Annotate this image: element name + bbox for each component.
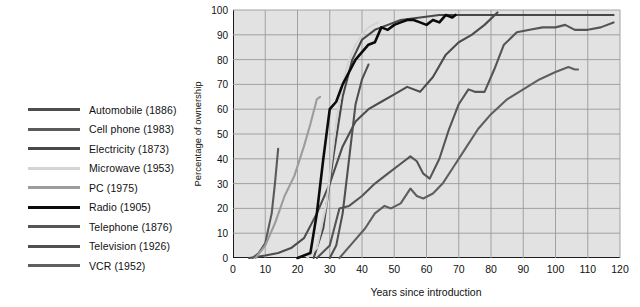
x-tick-label: 90 xyxy=(517,263,529,275)
legend-label-pc: PC (1975) xyxy=(89,182,138,194)
x-axis-label: Years since introduction xyxy=(370,286,481,298)
series-line xyxy=(307,22,378,258)
legend-swatch-telephone xyxy=(28,225,80,228)
legend-item-vcr[interactable]: VCR (1952) xyxy=(28,256,203,276)
legend-swatch-radio xyxy=(28,206,80,210)
legend-swatch-electricity xyxy=(28,147,80,150)
x-tick-label: 20 xyxy=(292,263,304,275)
y-tick-label: 80 xyxy=(217,54,228,65)
legend-label-automobile: Automobile (1886) xyxy=(89,104,177,116)
series-line xyxy=(298,15,456,258)
chart-figure: Automobile (1886) Cell phone (1983) Elec… xyxy=(0,0,640,307)
series-line xyxy=(252,149,278,258)
y-tick-label: 60 xyxy=(217,104,228,115)
y-tick-label: 70 xyxy=(217,79,228,90)
series-lines xyxy=(233,10,620,258)
legend-label-vcr: VCR (1952) xyxy=(89,260,145,272)
series-line xyxy=(314,15,614,258)
series-line xyxy=(249,12,497,258)
y-tick-label: 90 xyxy=(217,29,228,40)
y-tick-label: 20 xyxy=(217,203,228,214)
legend-swatch-cell-phone xyxy=(28,128,80,131)
y-tick-label: 40 xyxy=(217,153,228,164)
x-tick-label: 40 xyxy=(356,263,368,275)
legend-swatch-automobile xyxy=(28,108,80,111)
legend-item-cell-phone[interactable]: Cell phone (1983) xyxy=(28,120,203,140)
x-tick-label: 80 xyxy=(485,263,497,275)
legend-swatch-microwave xyxy=(28,167,80,170)
legend-item-microwave[interactable]: Microwave (1953) xyxy=(28,159,203,179)
legend-item-automobile[interactable]: Automobile (1886) xyxy=(28,100,203,120)
legend-swatch-television xyxy=(28,245,80,248)
legend-label-television: Television (1926) xyxy=(89,240,170,252)
x-tick-label: 120 xyxy=(611,263,629,275)
y-tick-label: 10 xyxy=(217,228,228,239)
chart-legend: Automobile (1886) Cell phone (1983) Elec… xyxy=(28,100,203,276)
series-line xyxy=(339,67,578,258)
x-tick-label: 110 xyxy=(579,263,596,275)
series-line xyxy=(317,22,614,258)
plot-area: 0102030405060708090100 01020304050607080… xyxy=(233,10,620,258)
legend-item-pc[interactable]: PC (1975) xyxy=(28,178,203,198)
legend-swatch-pc xyxy=(28,186,80,189)
x-tick-label: 0 xyxy=(230,263,236,275)
x-tick-label: 100 xyxy=(547,263,565,275)
legend-label-electricity: Electricity (1873) xyxy=(89,143,169,155)
legend-label-telephone: Telephone (1876) xyxy=(89,221,172,233)
legend-item-electricity[interactable]: Electricity (1873) xyxy=(28,139,203,159)
legend-label-cell-phone: Cell phone (1983) xyxy=(89,123,174,135)
legend-item-television[interactable]: Television (1926) xyxy=(28,237,203,257)
x-tick-label: 30 xyxy=(324,263,336,275)
y-tick-label: 100 xyxy=(211,5,228,16)
legend-label-microwave: Microwave (1953) xyxy=(89,162,174,174)
legend-label-radio: Radio (1905) xyxy=(89,201,151,213)
y-tick-label: 30 xyxy=(217,178,228,189)
x-tick-label: 70 xyxy=(453,263,465,275)
x-tick-label: 50 xyxy=(388,263,400,275)
series-line xyxy=(330,65,369,258)
x-tick-label: 60 xyxy=(421,263,433,275)
x-tick-label: 10 xyxy=(259,263,271,275)
y-tick-label: 0 xyxy=(222,253,228,264)
legend-item-radio[interactable]: Radio (1905) xyxy=(28,198,203,218)
y-axis-label: Percentage of ownership xyxy=(192,81,203,186)
y-tick-label: 50 xyxy=(217,129,228,140)
legend-swatch-vcr xyxy=(28,264,80,267)
legend-item-telephone[interactable]: Telephone (1876) xyxy=(28,217,203,237)
series-line xyxy=(256,97,321,258)
